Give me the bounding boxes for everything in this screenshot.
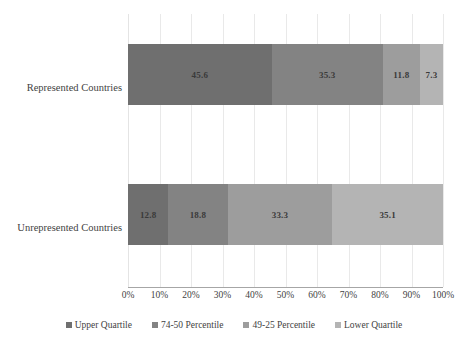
x-tick-label: 50% [277, 290, 294, 300]
x-tick-label: 100% [432, 290, 454, 300]
legend-swatch-icon [335, 322, 341, 328]
bar-segment-value: 35.3 [319, 70, 336, 80]
bar-segment-value: 18.8 [190, 210, 207, 220]
bar-segment-value: 35.1 [379, 210, 396, 220]
legend-label: 49-25 Percentile [252, 320, 315, 330]
x-tick-label: 20% [182, 290, 199, 300]
chart-legend: Upper Quartile74-50 Percentile49-25 Perc… [0, 320, 468, 330]
bar-segment-value: 7.3 [426, 70, 438, 80]
bar-segment: 45.6 [128, 44, 272, 105]
bar-segment: 18.8 [168, 184, 227, 245]
legend-item[interactable]: Lower Quartile [335, 320, 402, 330]
bar-segment: 35.1 [332, 184, 443, 245]
x-tick-label: 40% [245, 290, 262, 300]
bar-segment-value: 45.6 [192, 70, 209, 80]
x-tick-label: 0% [122, 290, 135, 300]
bar-represented-countries: 45.635.311.87.3 [128, 44, 443, 105]
legend-label: Upper Quartile [75, 320, 132, 330]
bar-segment: 11.8 [383, 44, 420, 105]
x-tick-label: 90% [403, 290, 420, 300]
legend-item[interactable]: 49-25 Percentile [243, 320, 315, 330]
category-label-unrepresented-countries: Unrepresented Countries [0, 222, 122, 233]
x-axis-line [128, 287, 443, 288]
legend-swatch-icon [66, 322, 72, 328]
legend-swatch-icon [243, 322, 249, 328]
x-tick-label: 10% [151, 290, 168, 300]
x-tick-label: 80% [371, 290, 388, 300]
bar-unrepresented-countries: 12.818.833.335.1 [128, 184, 443, 245]
bar-segment-value: 33.3 [272, 210, 289, 220]
bar-segment: 35.3 [272, 44, 383, 105]
stacked-bar-chart: Represented Countries Unrepresented Coun… [0, 0, 468, 349]
bar-segment-value: 12.8 [140, 210, 157, 220]
category-label-represented-countries: Represented Countries [0, 82, 122, 93]
legend-item[interactable]: Upper Quartile [66, 320, 132, 330]
bar-segment-value: 11.8 [393, 70, 409, 80]
legend-swatch-icon [152, 322, 158, 328]
bar-segment: 7.3 [420, 44, 443, 105]
bar-segment: 12.8 [128, 184, 168, 245]
legend-label: Lower Quartile [344, 320, 402, 330]
bar-segment: 33.3 [228, 184, 333, 245]
gridline-100 [443, 14, 444, 287]
x-axis-tick-labels: 0%10%20%30%40%50%60%70%80%90%100% [128, 290, 443, 306]
x-tick-label: 60% [308, 290, 325, 300]
x-tick-label: 30% [214, 290, 231, 300]
legend-label: 74-50 Percentile [161, 320, 224, 330]
x-tick-label: 70% [340, 290, 357, 300]
legend-item[interactable]: 74-50 Percentile [152, 320, 224, 330]
